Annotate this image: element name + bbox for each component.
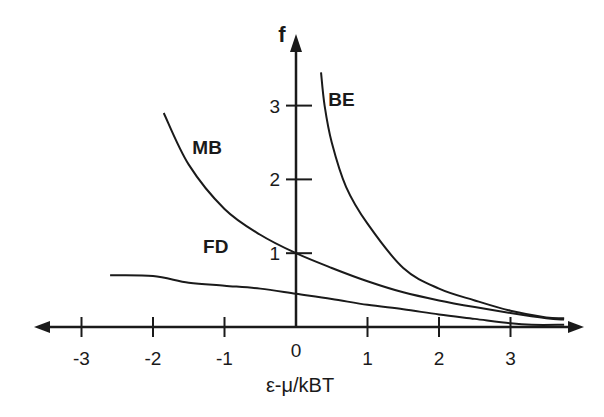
y-tick-label: 2 bbox=[269, 169, 280, 190]
labels: ε-μ/kBTfMBBEFD bbox=[192, 22, 354, 396]
curves bbox=[110, 72, 564, 325]
axes: -3-2-10123123 bbox=[34, 34, 584, 369]
y-axis-title: f bbox=[278, 22, 286, 47]
curve-label-mb: MB bbox=[192, 137, 222, 158]
curve-label-be: BE bbox=[328, 89, 354, 110]
curve-label-fd: FD bbox=[203, 236, 228, 257]
curve-fd bbox=[110, 275, 564, 325]
x-tick-label: 0 bbox=[291, 340, 302, 361]
curve-be bbox=[321, 72, 564, 318]
x-axis-right-arrow-icon bbox=[568, 321, 584, 333]
x-tick-label: -2 bbox=[145, 348, 162, 369]
y-tick-label: 1 bbox=[269, 243, 280, 264]
x-axis-left-arrow-icon bbox=[34, 321, 50, 333]
x-tick-label: 2 bbox=[434, 348, 445, 369]
x-tick-label: -3 bbox=[73, 348, 90, 369]
x-tick-label: -1 bbox=[216, 348, 233, 369]
x-axis-title: ε-μ/kBT bbox=[266, 374, 334, 396]
y-tick-label: 3 bbox=[269, 96, 280, 117]
y-axis-arrow-icon bbox=[290, 34, 302, 52]
x-tick-label: 1 bbox=[362, 348, 373, 369]
chart-canvas: -3-2-10123123 ε-μ/kBTfMBBEFD bbox=[0, 0, 604, 417]
x-tick-label: 3 bbox=[505, 348, 516, 369]
curve-mb bbox=[164, 113, 564, 320]
